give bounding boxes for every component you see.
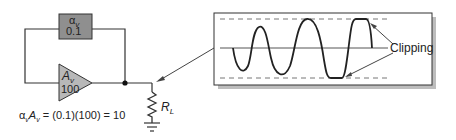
feedback-value: 0.1 — [66, 25, 81, 37]
load-label: RL — [161, 100, 174, 116]
loop-gain-equation: αvAv = (0.1)(100) = 10 — [19, 109, 125, 123]
pointer-arrow — [156, 48, 214, 82]
clipping-label: Clipping — [390, 41, 433, 55]
ground-icon — [144, 123, 160, 131]
resistor-icon — [148, 92, 156, 123]
junction-node — [122, 80, 127, 85]
amplifier-gain: 100 — [61, 83, 79, 95]
load-subscript: L — [170, 107, 174, 116]
equation-value: = (0.1)(100) = 10 — [43, 109, 126, 121]
